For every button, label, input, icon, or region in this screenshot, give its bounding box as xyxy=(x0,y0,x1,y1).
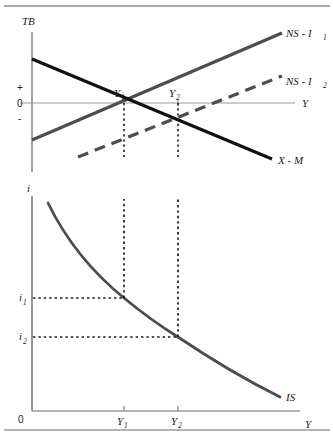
bottom-rate-label-i2-text: i xyxy=(19,330,22,342)
bottom-rate-label-i2-sub: 2 xyxy=(23,337,27,346)
curve-label-x-minus-m: X - M xyxy=(277,154,304,166)
bottom-tick-label-y2-sub: 2 xyxy=(178,421,182,430)
diagram-canvas: TB Y + 0 - Y 1 Y 2 NS - I 1 NS - I 2 xyxy=(0,0,333,440)
top-point-label-y2-sub: 2 xyxy=(176,93,180,102)
curve-label-ns-i2-text: NS - I xyxy=(285,75,313,87)
top-point-label-y1-sub: 1 xyxy=(121,93,125,102)
curve-label-is: IS xyxy=(285,391,296,403)
top-tick-minus: - xyxy=(18,113,21,124)
curve-label-ns-i2-sub: 2 xyxy=(323,81,327,90)
curve-label-ns-i1-sub: 1 xyxy=(323,33,327,42)
curve-label-ns-i1-text: NS - I xyxy=(285,27,313,39)
top-tick-plus: + xyxy=(17,82,23,93)
economics-diagram-figure: TB Y + 0 - Y 1 Y 2 NS - I 1 NS - I 2 xyxy=(0,0,333,440)
bottom-rate-label-i1-text: i xyxy=(19,291,22,303)
bottom-rate-label-i1-sub: 1 xyxy=(23,298,27,307)
bottom-origin-label: 0 xyxy=(18,414,24,425)
bottom-y-axis-label: i xyxy=(27,182,30,194)
bottom-tick-label-y1-sub: 1 xyxy=(124,421,128,430)
top-y-axis-label: TB xyxy=(22,15,35,27)
top-tick-zero: 0 xyxy=(17,98,23,109)
